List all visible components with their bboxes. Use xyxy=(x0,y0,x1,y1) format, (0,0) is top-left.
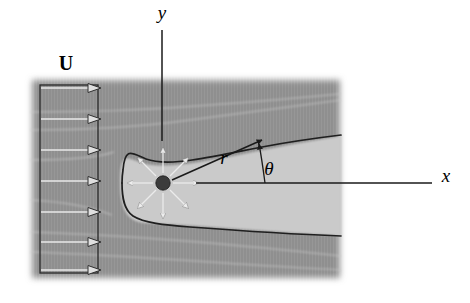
angle-label: θ xyxy=(264,158,273,179)
y-axis-label: y xyxy=(156,2,167,23)
free-stream-label: U xyxy=(59,52,73,74)
point-source xyxy=(128,148,198,218)
source-dot xyxy=(156,176,170,190)
fluid-flow-diagram: U y x r θ xyxy=(0,0,470,303)
x-axis-label: x xyxy=(441,165,451,186)
radius-label: r xyxy=(220,147,228,168)
diagram-canvas: U y x r θ xyxy=(0,0,470,303)
